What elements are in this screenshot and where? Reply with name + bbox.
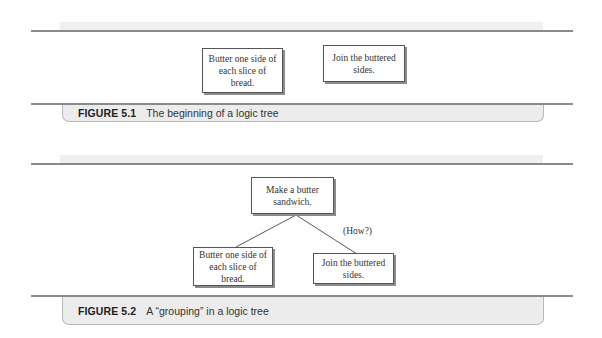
figure-title: A “grouping” in a logic tree bbox=[146, 305, 269, 317]
figure-caption: FIGURE 5.2 A “grouping” in a logic tree bbox=[62, 297, 544, 325]
connector-left bbox=[236, 215, 296, 247]
node-label: Join the buttered sides. bbox=[317, 257, 390, 281]
how-annotation: (How?) bbox=[343, 226, 372, 236]
tree-connectors bbox=[0, 0, 602, 338]
node-join-sides: Join the buttered sides. bbox=[313, 253, 394, 284]
node-label: Make a butter sandwich. bbox=[255, 184, 330, 208]
figure-number: FIGURE 5.2 bbox=[78, 305, 136, 317]
node-butter-bread: Butter one side of each slice of bread. bbox=[193, 247, 273, 286]
node-label: Butter one side of each slice of bread. bbox=[197, 249, 269, 285]
node-root-make-sandwich: Make a butter sandwich. bbox=[251, 177, 334, 214]
